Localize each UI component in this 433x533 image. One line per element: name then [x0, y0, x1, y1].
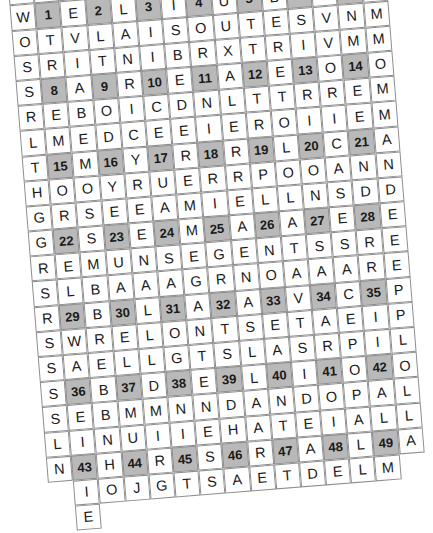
letter-cell[interactable]: O: [187, 15, 214, 42]
letter-cell[interactable]: A: [62, 353, 89, 380]
letter-cell[interactable]: L: [56, 278, 83, 305]
letter-cell[interactable]: L: [389, 327, 416, 354]
letter-cell[interactable]: I: [139, 44, 166, 71]
letter-cell[interactable]: L: [136, 322, 163, 349]
letter-cell[interactable]: M: [79, 251, 106, 278]
letter-cell[interactable]: W: [9, 4, 36, 31]
letter-cell[interactable]: O: [98, 477, 125, 504]
letter-cell[interactable]: N: [267, 387, 294, 414]
letter-cell[interactable]: E: [54, 253, 81, 280]
letter-cell[interactable]: E: [128, 221, 155, 248]
letter-cell[interactable]: R: [264, 34, 291, 61]
letter-cell[interactable]: I: [201, 190, 228, 217]
letter-cell[interactable]: I: [289, 32, 316, 59]
letter-cell[interactable]: A: [65, 75, 92, 102]
letter-cell[interactable]: S: [326, 180, 353, 207]
letter-cell[interactable]: N: [186, 318, 213, 345]
clue-cell-26[interactable]: 26: [253, 211, 280, 238]
letter-cell[interactable]: R: [313, 333, 340, 360]
letter-cell[interactable]: S: [15, 79, 42, 106]
clue-cell-21[interactable]: 21: [348, 128, 375, 155]
letter-cell[interactable]: O: [318, 383, 345, 410]
letter-cell[interactable]: Y: [122, 146, 149, 173]
letter-cell[interactable]: L: [251, 186, 278, 213]
letter-cell[interactable]: D: [292, 385, 319, 412]
letter-cell[interactable]: E: [111, 324, 138, 351]
letter-cell[interactable]: P: [249, 161, 276, 188]
clue-cell-24[interactable]: 24: [153, 219, 180, 246]
letter-cell[interactable]: R: [115, 71, 142, 98]
letter-cell[interactable]: I: [295, 107, 322, 134]
clue-cell-32[interactable]: 32: [209, 291, 236, 318]
letter-cell[interactable]: E: [180, 243, 207, 270]
letter-cell[interactable]: S: [236, 314, 263, 341]
letter-cell[interactable]: R: [189, 40, 216, 67]
letter-cell[interactable]: I: [169, 420, 196, 447]
letter-cell[interactable]: H: [23, 179, 50, 206]
letter-cell[interactable]: O: [299, 157, 326, 184]
letter-cell[interactable]: M: [71, 150, 98, 177]
letter-cell[interactable]: G: [163, 345, 190, 372]
letter-cell[interactable]: E: [294, 410, 321, 437]
letter-cell[interactable]: T: [239, 36, 266, 63]
letter-cell[interactable]: L: [238, 339, 265, 366]
letter-cell[interactable]: A: [345, 406, 372, 433]
letter-cell[interactable]: I: [144, 422, 171, 449]
letter-cell[interactable]: L: [395, 402, 422, 429]
letter-cell[interactable]: I: [72, 479, 99, 506]
clue-cell-18[interactable]: 18: [197, 140, 224, 167]
letter-cell[interactable]: P: [339, 331, 366, 358]
letter-cell[interactable]: I: [362, 304, 389, 331]
letter-cell[interactable]: I: [320, 408, 347, 435]
letter-cell[interactable]: M: [44, 127, 71, 154]
letter-cell[interactable]: V: [61, 25, 88, 52]
clue-cell-8[interactable]: 8: [40, 77, 67, 104]
letter-cell[interactable]: E: [266, 59, 293, 86]
letter-cell[interactable]: O: [92, 98, 119, 125]
letter-cell[interactable]: T: [173, 471, 200, 498]
letter-cell[interactable]: U: [105, 249, 132, 276]
letter-cell[interactable]: O: [274, 159, 301, 186]
letter-cell[interactable]: R: [358, 254, 385, 281]
letter-cell[interactable]: O: [391, 352, 418, 379]
letter-cell[interactable]: M: [371, 101, 398, 128]
letter-cell[interactable]: L: [276, 184, 303, 211]
letter-cell[interactable]: A: [296, 435, 323, 462]
clue-cell-42[interactable]: 42: [366, 354, 393, 381]
letter-cell[interactable]: M: [369, 76, 396, 103]
letter-cell[interactable]: E: [379, 201, 406, 228]
letter-cell[interactable]: I: [68, 428, 95, 455]
letter-cell[interactable]: R: [29, 255, 56, 282]
letter-cell[interactable]: R: [172, 142, 199, 169]
letter-cell[interactable]: N: [167, 395, 194, 422]
letter-cell[interactable]: T: [237, 11, 264, 38]
clue-cell-11[interactable]: 11: [191, 65, 218, 92]
letter-cell[interactable]: S: [305, 232, 332, 259]
letter-cell[interactable]: B: [67, 100, 94, 127]
letter-cell[interactable]: A: [132, 272, 159, 299]
letter-cell[interactable]: E: [66, 403, 93, 430]
letter-cell[interactable]: R: [245, 111, 272, 138]
letter-cell[interactable]: E: [262, 9, 289, 36]
clue-cell-41[interactable]: 41: [315, 358, 342, 385]
letter-cell[interactable]: N: [192, 393, 219, 420]
letter-cell[interactable]: A: [244, 414, 271, 441]
letter-cell[interactable]: N: [375, 151, 402, 178]
clue-cell-20[interactable]: 20: [297, 132, 324, 159]
letter-cell[interactable]: A: [107, 274, 134, 301]
clue-cell-47[interactable]: 47: [271, 437, 298, 464]
letter-cell[interactable]: T: [88, 48, 115, 75]
letter-cell[interactable]: S: [37, 355, 64, 382]
letter-cell[interactable]: L: [86, 23, 113, 50]
letter-cell[interactable]: A: [324, 155, 351, 182]
letter-cell[interactable]: N: [94, 426, 121, 453]
letter-cell[interactable]: T: [21, 154, 48, 181]
clue-cell-10[interactable]: 10: [141, 69, 168, 96]
letter-cell[interactable]: S: [13, 54, 40, 81]
letter-cell[interactable]: M: [339, 28, 366, 55]
letter-cell[interactable]: E: [337, 306, 364, 333]
letter-cell[interactable]: L: [138, 347, 165, 374]
clue-cell-31[interactable]: 31: [159, 295, 186, 322]
letter-cell[interactable]: E: [226, 188, 253, 215]
letter-cell[interactable]: Y: [98, 173, 125, 200]
